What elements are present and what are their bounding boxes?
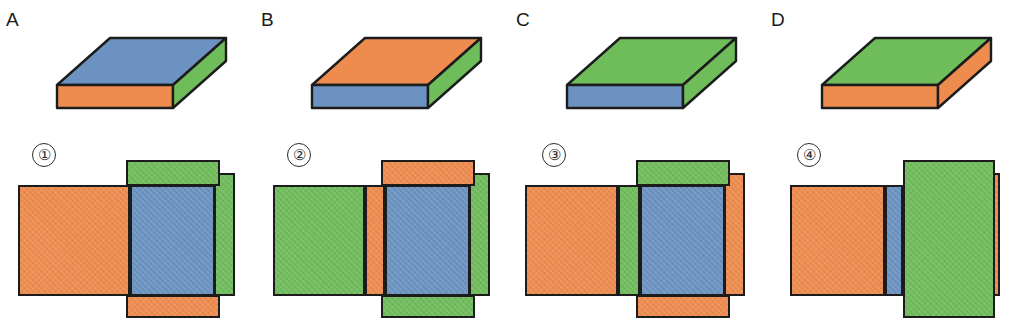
net-2-top-tab xyxy=(381,160,475,186)
net-4-mid-strip xyxy=(885,185,903,296)
puzzle-column-d: D④ xyxy=(765,0,1020,325)
net-3 xyxy=(510,0,765,325)
net-2 xyxy=(255,0,510,325)
puzzle-page: A①B②C③D④ xyxy=(0,0,1020,325)
puzzle-column-b: B② xyxy=(255,0,510,325)
puzzle-column-c: C③ xyxy=(510,0,765,325)
net-3-top-tab xyxy=(636,160,730,186)
net-1-top-tab xyxy=(126,160,220,186)
net-1-bottom-tab xyxy=(126,295,220,318)
net-1 xyxy=(0,0,255,325)
net-2-right-strip xyxy=(469,173,490,296)
puzzle-column-a: A① xyxy=(0,0,255,325)
net-1-left-panel xyxy=(18,185,130,296)
net-1-right-strip xyxy=(214,173,235,296)
net-2-center-panel xyxy=(385,185,470,296)
net-2-bottom-tab xyxy=(381,295,475,318)
net-1-center-panel xyxy=(130,185,215,296)
net-4-left-panel xyxy=(790,185,885,296)
net-3-center-panel xyxy=(640,185,725,296)
net-3-left-panel xyxy=(525,185,618,296)
net-4-big-green xyxy=(903,160,995,318)
net-2-left-panel xyxy=(273,185,365,296)
net-3-right-strip xyxy=(724,173,745,296)
net-3-bottom-tab xyxy=(636,295,730,318)
net-2-mid-strip xyxy=(365,185,385,296)
net-3-mid-strip xyxy=(618,185,640,296)
net-4 xyxy=(765,0,1020,325)
